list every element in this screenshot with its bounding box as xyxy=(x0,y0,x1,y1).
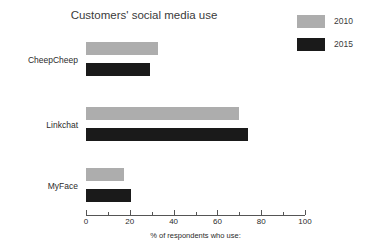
x-minor-tick-10 xyxy=(108,212,109,215)
legend-swatch-2015 xyxy=(297,38,325,51)
legend-label-2010: 2010 xyxy=(334,17,353,26)
x-minor-tick-70 xyxy=(239,212,240,215)
x-tick-20 xyxy=(130,210,131,215)
x-tick-label-80: 80 xyxy=(246,217,276,226)
x-tick-label-60: 60 xyxy=(202,217,232,226)
x-tick-label-40: 40 xyxy=(159,217,189,226)
x-tick-label-20: 20 xyxy=(115,217,145,226)
category-label-cheepcheep: CheepCheep xyxy=(0,55,78,65)
x-minor-tick-50 xyxy=(196,212,197,215)
legend-swatch-2010 xyxy=(297,15,325,28)
legend-label-2015: 2015 xyxy=(334,40,353,49)
bar-myface-2015 xyxy=(86,189,131,202)
chart-legend: 2010 2015 xyxy=(297,14,373,60)
x-tick-label-100: 100 xyxy=(290,217,320,226)
x-axis-line xyxy=(86,215,305,216)
x-minor-tick-30 xyxy=(152,212,153,215)
bar-cheepcheep-2010 xyxy=(86,42,158,55)
legend-item-2015[interactable]: 2015 xyxy=(297,37,373,51)
x-tick-40 xyxy=(174,210,175,215)
x-tick-60 xyxy=(217,210,218,215)
legend-item-2010[interactable]: 2010 xyxy=(297,14,373,28)
bar-linkchat-2010 xyxy=(86,107,239,120)
category-label-linkchat: Linkchat xyxy=(0,120,78,130)
bar-linkchat-2015 xyxy=(86,128,248,141)
category-label-myface: MyFace xyxy=(0,181,78,191)
x-tick-100 xyxy=(305,210,306,215)
bar-cheepcheep-2015 xyxy=(86,63,150,76)
x-minor-tick-90 xyxy=(283,212,284,215)
x-tick-80 xyxy=(261,210,262,215)
x-axis-label: % of respondents who use: xyxy=(86,231,305,240)
x-tick-label-0: 0 xyxy=(71,217,101,226)
bar-chart: Customers' social media use 2010 2015 Ch… xyxy=(0,0,376,252)
bar-myface-2010 xyxy=(86,168,124,181)
x-tick-0 xyxy=(86,210,87,215)
